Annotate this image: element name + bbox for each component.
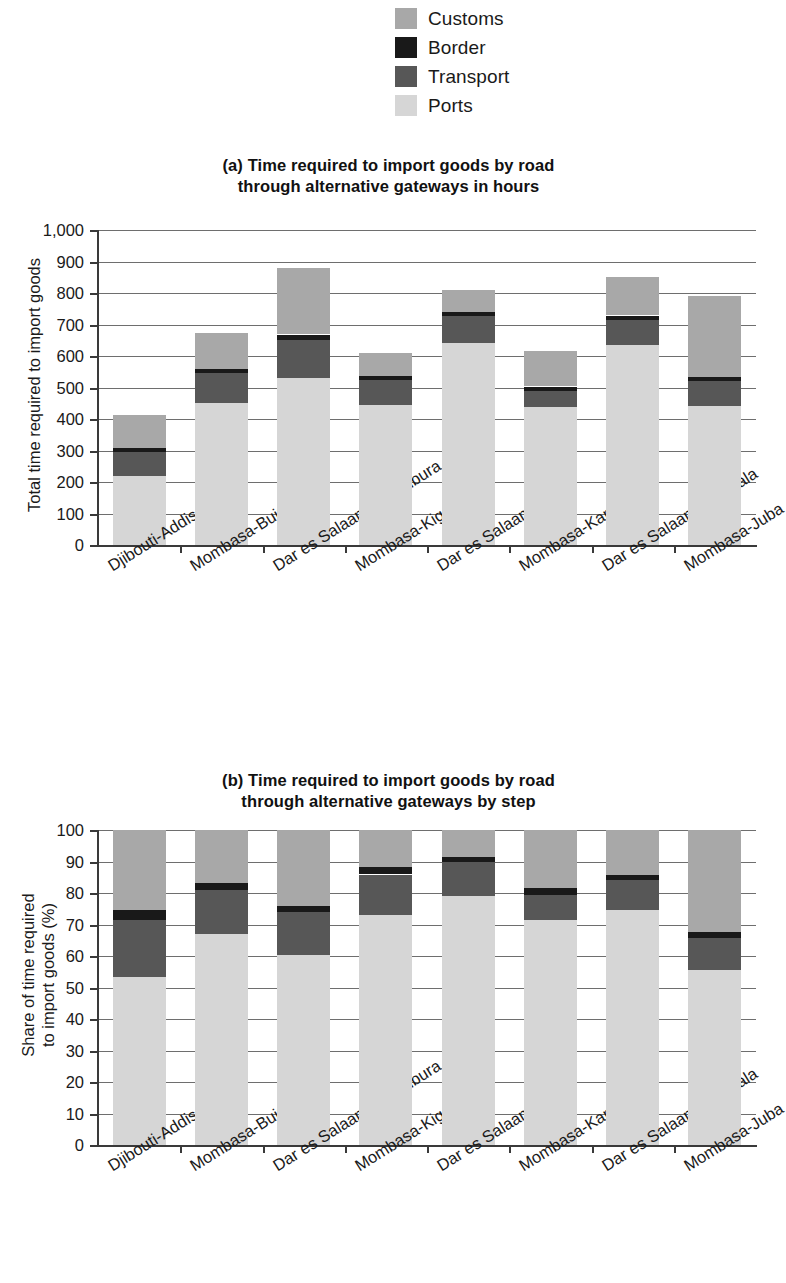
- y-axis-tick: [90, 230, 98, 232]
- bar-segment-customs: [688, 296, 741, 377]
- bar-segment-customs: [688, 830, 741, 932]
- bar-segment-ports: [442, 896, 495, 1145]
- bar-segment-transport: [113, 452, 166, 476]
- y-axis-tick: [90, 514, 98, 516]
- x-axis-tick: [592, 545, 594, 553]
- y-axis-tick: [90, 482, 98, 484]
- y-axis-tick: [90, 325, 98, 327]
- y-axis-tick-label: 800: [12, 285, 84, 302]
- y-axis-tick-label: 30: [12, 1043, 84, 1060]
- y-axis-tick: [90, 356, 98, 358]
- bar-segment-transport: [524, 391, 577, 407]
- bar-segment-ports: [359, 405, 412, 545]
- bar-mombasa-bujumbura[interactable]: [195, 230, 248, 545]
- bar-segment-border: [359, 376, 412, 380]
- y-axis-tick-label: 40: [12, 1011, 84, 1028]
- bar-mombasa-kampala[interactable]: [524, 230, 577, 545]
- bar-segment-customs: [277, 830, 330, 906]
- y-axis-tick: [90, 262, 98, 264]
- bar-segment-transport: [606, 880, 659, 910]
- x-axis-tick: [345, 545, 347, 553]
- bar-segment-border: [113, 448, 166, 452]
- bar-segment-transport: [195, 373, 248, 403]
- y-axis-tick: [90, 862, 98, 864]
- bar-segment-customs: [113, 830, 166, 910]
- y-axis-tick-label: 700: [12, 317, 84, 334]
- x-axis-tick: [509, 545, 511, 553]
- bar-segment-transport: [113, 920, 166, 977]
- y-axis-tick: [90, 956, 98, 958]
- y-axis-tick-label: 60: [12, 948, 84, 965]
- bar-segment-border: [195, 883, 248, 890]
- bar-segment-transport: [359, 875, 412, 915]
- bar-mombasa-juba[interactable]: [688, 230, 741, 545]
- bar-segment-customs: [524, 830, 577, 888]
- panel-b-plot: 0102030405060708090100Djibouti-AddisMomb…: [0, 780, 777, 1280]
- bar-segment-ports: [688, 406, 741, 545]
- y-axis-tick-label: 300: [12, 443, 84, 460]
- bar-segment-customs: [442, 830, 495, 857]
- bar-djibouti-addis[interactable]: [113, 230, 166, 545]
- y-axis-tick: [90, 988, 98, 990]
- x-axis-tick: [345, 1145, 347, 1153]
- bar-segment-ports: [606, 345, 659, 545]
- bar-segment-transport: [688, 938, 741, 970]
- y-axis-tick-label: 0: [12, 537, 84, 554]
- bar-mombasa-juba[interactable]: [688, 830, 741, 1145]
- bar-segment-customs: [195, 830, 248, 883]
- y-axis-tick-label: 10: [12, 1106, 84, 1123]
- bar-segment-transport: [688, 381, 741, 406]
- y-axis-tick-label: 100: [12, 506, 84, 523]
- x-axis-tick: [674, 1145, 676, 1153]
- bar-segment-customs: [524, 351, 577, 386]
- bar-segment-ports: [606, 910, 659, 1145]
- bar-segment-transport: [442, 862, 495, 896]
- y-axis-tick-label: 200: [12, 474, 84, 491]
- y-axis-tick-label: 80: [12, 885, 84, 902]
- bar-segment-ports: [688, 970, 741, 1145]
- bar-mombasa-kampala[interactable]: [524, 830, 577, 1145]
- bar-segment-ports: [195, 403, 248, 545]
- y-axis-tick-label: 1,000: [12, 222, 84, 239]
- bar-segment-border: [442, 312, 495, 316]
- bar-dar-es-salaam-kampala[interactable]: [606, 230, 659, 545]
- bar-dar-es-salaam-kigali[interactable]: [442, 230, 495, 545]
- bar-segment-transport: [359, 380, 412, 405]
- bar-segment-transport: [442, 316, 495, 343]
- bar-segment-ports: [524, 920, 577, 1145]
- bar-segment-border: [359, 867, 412, 874]
- x-axis-tick: [263, 545, 265, 553]
- bar-mombasa-kigali[interactable]: [359, 830, 412, 1145]
- y-axis-tick: [90, 1082, 98, 1084]
- bar-segment-ports: [113, 977, 166, 1145]
- y-axis-tick: [90, 1114, 98, 1116]
- bar-segment-border: [688, 932, 741, 938]
- bar-segment-transport: [195, 890, 248, 934]
- bar-segment-border: [277, 335, 330, 340]
- bar-dar-es-salaam-kampala[interactable]: [606, 830, 659, 1145]
- y-axis-tick-label: 0: [12, 1137, 84, 1154]
- x-axis-tick: [427, 545, 429, 553]
- y-axis-tick: [90, 293, 98, 295]
- bar-dar-es-salaam-bujumbura[interactable]: [277, 830, 330, 1145]
- y-axis-tick-label: 90: [12, 854, 84, 871]
- bar-djibouti-addis[interactable]: [113, 830, 166, 1145]
- bar-segment-border: [277, 906, 330, 912]
- bar-dar-es-salaam-bujumbura[interactable]: [277, 230, 330, 545]
- x-axis-tick: [674, 545, 676, 553]
- bar-segment-ports: [277, 378, 330, 545]
- y-axis-tick: [90, 388, 98, 390]
- y-axis-tick-label: 50: [12, 980, 84, 997]
- x-axis-tick: [180, 1145, 182, 1153]
- bar-segment-ports: [277, 955, 330, 1145]
- bar-mombasa-bujumbura[interactable]: [195, 830, 248, 1145]
- bar-dar-es-salaam-kigali[interactable]: [442, 830, 495, 1145]
- bar-segment-customs: [359, 830, 412, 867]
- panel-a-plot: 01002003004005006007008009001,000Djibout…: [0, 0, 777, 700]
- y-axis-tick: [90, 1051, 98, 1053]
- bar-mombasa-kigali[interactable]: [359, 230, 412, 545]
- y-axis-tick-label: 20: [12, 1074, 84, 1091]
- bar-segment-customs: [606, 830, 659, 875]
- y-axis-tick: [90, 830, 98, 832]
